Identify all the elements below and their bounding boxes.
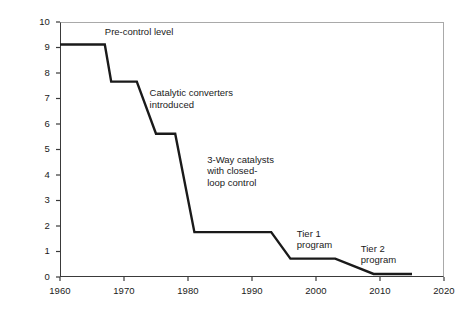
x-axis-ticks xyxy=(60,277,444,281)
y-axis-ticks xyxy=(56,22,60,277)
annotation-pre-control: Pre-control level xyxy=(105,26,174,37)
y-tick-label: 4 xyxy=(22,169,50,180)
annotation-tier-1: Tier 1 program xyxy=(297,228,332,251)
x-tick-label: 2010 xyxy=(360,285,400,296)
y-tick-label: 9 xyxy=(22,41,50,52)
annotation-catalytic-converters: Catalytic converters introduced xyxy=(150,87,233,110)
y-tick-label: 10 xyxy=(22,16,50,27)
x-tick-label: 1960 xyxy=(40,285,80,296)
y-tick-label: 1 xyxy=(22,245,50,256)
annotation-tier-2: Tier 2 program xyxy=(361,243,396,266)
y-tick-label: 7 xyxy=(22,92,50,103)
y-tick-label: 8 xyxy=(22,67,50,78)
x-tick-label: 2000 xyxy=(296,285,336,296)
y-tick-label: 0 xyxy=(22,271,50,282)
x-tick-label: 1980 xyxy=(168,285,208,296)
chart-figure: Health damage index (nominal cents/mile)… xyxy=(0,0,467,324)
x-tick-label: 1990 xyxy=(232,285,272,296)
annotation-three-way-catalysts: 3-Way catalysts with closed- loop contro… xyxy=(207,154,274,188)
y-tick-label: 5 xyxy=(22,143,50,154)
x-tick-label: 2020 xyxy=(424,285,464,296)
y-tick-label: 2 xyxy=(22,220,50,231)
x-tick-label: 1970 xyxy=(104,285,144,296)
y-tick-label: 3 xyxy=(22,194,50,205)
y-tick-label: 6 xyxy=(22,118,50,129)
